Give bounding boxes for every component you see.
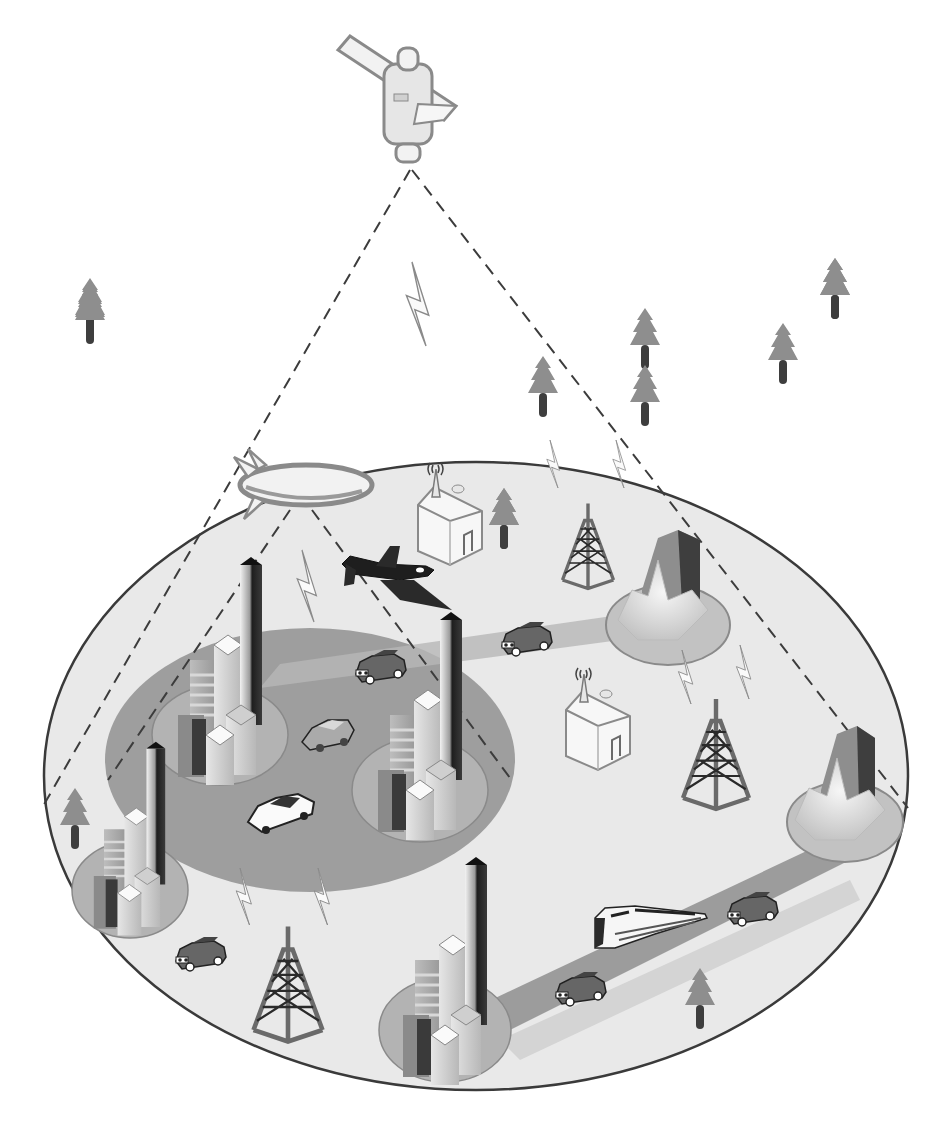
satellite [338, 36, 456, 162]
tree-east-top [820, 258, 850, 319]
tree-center-3 [630, 365, 660, 426]
signal-bolt-satellite [406, 262, 428, 346]
tree-west-top [75, 283, 105, 344]
network-diagram [0, 0, 950, 1124]
tree-east-mid [768, 323, 798, 384]
tree-center-2 [528, 356, 558, 417]
tree-center-1 [630, 308, 660, 369]
